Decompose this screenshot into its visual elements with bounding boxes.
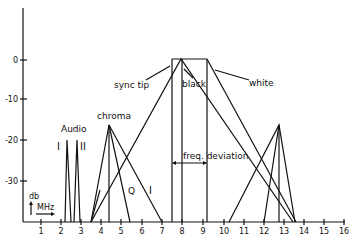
svg-text:II: II xyxy=(80,141,86,152)
svg-text:chroma: chroma xyxy=(97,111,131,121)
axis-units: db MHz xyxy=(29,192,55,216)
svg-text:db: db xyxy=(29,192,39,201)
freq-deviation-arrow: freq. deviation xyxy=(172,151,248,165)
svg-text:12: 12 xyxy=(259,227,269,236)
svg-text:white: white xyxy=(249,78,274,88)
svg-text:13: 13 xyxy=(279,227,289,236)
fm-spectrum-diagram: 0 -10 -20 -30 1 2 3 4 5 6 7 8 9 10 11 12… xyxy=(0,0,357,238)
svg-text:1: 1 xyxy=(38,227,43,236)
svg-text:-20: -20 xyxy=(5,136,18,145)
svg-text:Audio: Audio xyxy=(61,124,87,134)
svg-text:-10: -10 xyxy=(5,95,18,104)
svg-text:6: 6 xyxy=(139,227,144,236)
svg-text:10: 10 xyxy=(219,227,229,236)
audio-carriers: Audio I II xyxy=(57,124,87,222)
svg-text:-30: -30 xyxy=(5,177,18,186)
svg-text:MHz: MHz xyxy=(37,203,54,212)
upper-sidebands xyxy=(229,125,295,222)
svg-text:3: 3 xyxy=(78,227,83,236)
svg-text:16: 16 xyxy=(339,227,349,236)
svg-text:8: 8 xyxy=(179,227,184,236)
svg-text:sync tip: sync tip xyxy=(114,80,150,90)
svg-text:7: 7 xyxy=(159,227,164,236)
svg-text:5: 5 xyxy=(118,227,123,236)
svg-text:I: I xyxy=(149,185,152,196)
chroma-sidebands: chroma Q I xyxy=(91,111,162,222)
svg-text:0: 0 xyxy=(13,56,18,65)
luminance-envelope: sync tip black white xyxy=(91,59,296,222)
svg-text:black: black xyxy=(182,79,207,89)
svg-text:15: 15 xyxy=(319,227,329,236)
svg-text:I: I xyxy=(57,141,60,152)
svg-text:2: 2 xyxy=(58,227,63,236)
svg-text:freq. deviation: freq. deviation xyxy=(183,151,248,161)
y-ticks: 0 -10 -20 -30 xyxy=(5,56,27,186)
svg-text:11: 11 xyxy=(239,227,249,236)
svg-text:Q: Q xyxy=(128,186,135,196)
svg-text:4: 4 xyxy=(98,227,103,236)
svg-text:9: 9 xyxy=(200,227,205,236)
svg-text:14: 14 xyxy=(299,227,309,236)
